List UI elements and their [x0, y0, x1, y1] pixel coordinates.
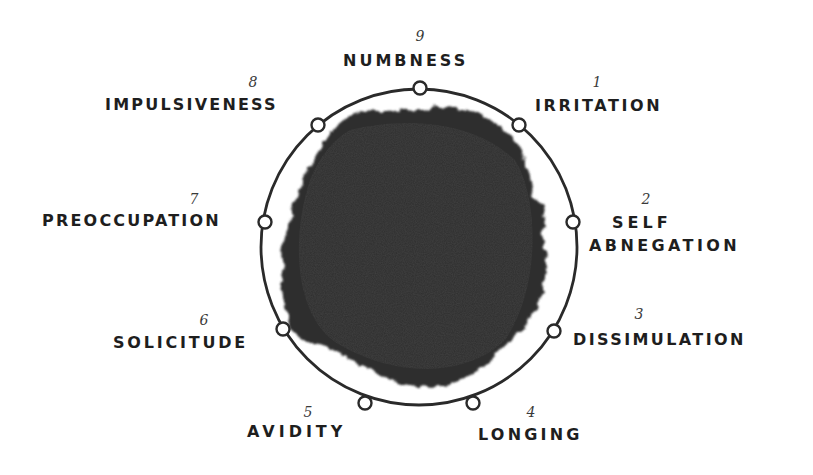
- node-5-avidity[interactable]: [359, 397, 372, 410]
- state-label-solicitude: SOLICITUDE: [113, 335, 248, 351]
- state-label-abnegation: ABNEGATION: [589, 238, 740, 254]
- state-label-numbness: NUMBNESS: [343, 53, 468, 69]
- state-label-preoccupation: PREOCCUPATION: [42, 213, 221, 229]
- node-6-solicitude[interactable]: [277, 323, 290, 336]
- state-number-8: 8: [249, 75, 258, 89]
- dark-blob: [282, 107, 546, 387]
- state-number-6: 6: [200, 313, 209, 327]
- state-number-4: 4: [527, 405, 536, 419]
- state-number-1: 1: [593, 75, 602, 89]
- node-3-dissimulation[interactable]: [548, 325, 561, 338]
- state-number-5: 5: [304, 405, 313, 419]
- state-number-3: 3: [635, 307, 644, 321]
- state-number-2: 2: [642, 192, 651, 206]
- node-7-preoccupation[interactable]: [259, 216, 272, 229]
- state-label-avidity: AVIDITY: [247, 424, 346, 440]
- state-label-longing: LONGING: [478, 427, 583, 443]
- state-label-dissimulation: DISSIMULATION: [573, 332, 746, 348]
- node-4-longing[interactable]: [467, 397, 480, 410]
- node-9-numbness[interactable]: [414, 82, 427, 95]
- state-number-9: 9: [416, 29, 425, 43]
- state-number-7: 7: [190, 192, 199, 206]
- state-label-impulsiveness: IMPULSIVENESS: [105, 97, 278, 113]
- node-8-impulsiveness[interactable]: [312, 119, 325, 132]
- node-1-irritation[interactable]: [513, 119, 526, 132]
- state-label-self: SELF: [612, 215, 672, 231]
- state-label-irritation: IRRITATION: [535, 98, 662, 114]
- node-2-self-abnegation[interactable]: [567, 216, 580, 229]
